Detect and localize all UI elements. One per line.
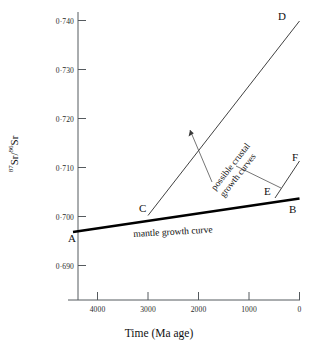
x-tick-label-1000: 1000 — [229, 305, 269, 314]
x-tick-label-0: 0 — [286, 305, 313, 314]
y-axis-title: 87Sr/86Sr — [8, 104, 20, 204]
y-tick-label-0690: 0·690 — [34, 262, 74, 271]
x-axis-title: Time (Ma age) — [0, 327, 318, 339]
point-label-c: C — [139, 202, 146, 214]
point-label-d: D — [278, 10, 286, 22]
y-tick-label-0710: 0·710 — [34, 164, 74, 173]
point-label-b: B — [289, 203, 296, 215]
arrowhead-cd-icon — [189, 130, 194, 136]
y-axis-title-mid: Sr/ — [8, 152, 20, 165]
y-tick-label-0730: 0·730 — [34, 66, 74, 75]
plot-area — [0, 0, 318, 349]
y-tick-label-0720: 0·720 — [34, 115, 74, 124]
sr-isotope-evolution-figure: 0·740 0·730 0·720 0·710 0·700 0·690 4000… — [0, 0, 318, 349]
point-label-a: A — [68, 232, 76, 244]
x-tick-label-3000: 3000 — [128, 305, 168, 314]
y-tick-label-0700: 0·700 — [34, 213, 74, 222]
point-label-f: F — [292, 151, 298, 163]
y-axis-title-sup-87: 87 — [7, 165, 15, 172]
crustal-curve-e-f — [275, 161, 300, 198]
y-tick-label-0740: 0·740 — [34, 17, 74, 26]
point-label-e: E — [264, 185, 271, 197]
x-tick-label-2000: 2000 — [179, 305, 219, 314]
y-axis-title-tail: Sr — [8, 136, 20, 146]
y-axis-title-sup-86: 86 — [7, 145, 15, 152]
x-tick-label-4000: 4000 — [78, 305, 118, 314]
